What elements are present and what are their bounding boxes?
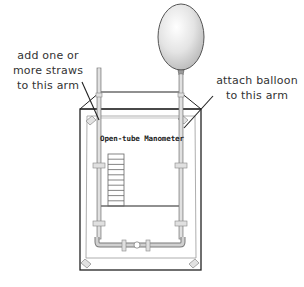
annotation-pointers [82, 82, 213, 128]
device-title: Open-tube Manometer [100, 134, 184, 143]
pointer-right-arm [184, 96, 213, 128]
u-tube-bottom [97, 237, 183, 248]
tube-clips [93, 93, 187, 251]
annotation-line: to this arm [12, 78, 84, 93]
scale-ladder [108, 154, 124, 206]
pointer-left-arm [82, 82, 99, 120]
right-arm-tube [179, 74, 183, 239]
annotation-line: to this arm [213, 88, 301, 103]
manometer-diagram: Open-tube Manometer add one or more stra… [0, 0, 304, 287]
annotation-right-arm: attach balloon to this arm [213, 73, 301, 103]
annotation-left-arm: add one or more straws to this arm [12, 48, 84, 93]
annotation-line: more straws [12, 63, 84, 78]
diagram-canvas [0, 0, 304, 287]
annotation-line: attach balloon [213, 73, 301, 88]
annotation-line: add one or [12, 48, 84, 63]
balloon [158, 4, 204, 75]
